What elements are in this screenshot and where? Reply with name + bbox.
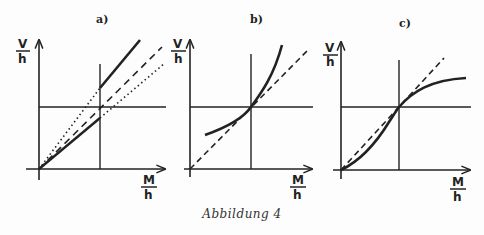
convex-curve — [205, 45, 282, 135]
x-axis-label: M h — [141, 173, 157, 202]
panel-b: b) V h M h — [171, 13, 313, 202]
svg-text:M: M — [292, 173, 304, 187]
svg-text:h: h — [18, 52, 27, 66]
x-axis-label: M h — [450, 175, 466, 204]
dotted-upper — [39, 88, 100, 169]
solid-lower — [39, 118, 100, 169]
svg-text:h: h — [453, 190, 462, 204]
svg-text:h: h — [293, 188, 302, 202]
panel-a: a) V h M h — [16, 13, 166, 202]
y-axis-label: V h — [323, 41, 338, 69]
figure-caption: Abbildung 4 — [0, 207, 484, 221]
panel-c-label: c) — [399, 17, 411, 30]
figure: a) V h M h b) V h — [0, 0, 484, 235]
y-axis-label: V h — [171, 37, 186, 66]
svg-text:M: M — [452, 175, 464, 189]
svg-text:V: V — [18, 37, 28, 51]
svg-text:V: V — [173, 37, 183, 51]
s-curve — [341, 78, 466, 170]
dashed-line — [341, 58, 444, 170]
svg-text:h: h — [326, 55, 335, 69]
svg-text:h: h — [144, 188, 153, 202]
panel-c: c) V h M h — [323, 17, 471, 204]
svg-text:h: h — [174, 52, 183, 66]
panel-b-label: b) — [250, 13, 263, 26]
panel-a-label: a) — [96, 13, 108, 26]
y-axis-label: V h — [16, 37, 30, 66]
svg-text:V: V — [325, 41, 335, 55]
solid-upper — [100, 40, 140, 88]
svg-text:M: M — [143, 173, 155, 187]
dotted-lower — [100, 63, 165, 118]
x-axis-label: M h — [290, 173, 306, 202]
